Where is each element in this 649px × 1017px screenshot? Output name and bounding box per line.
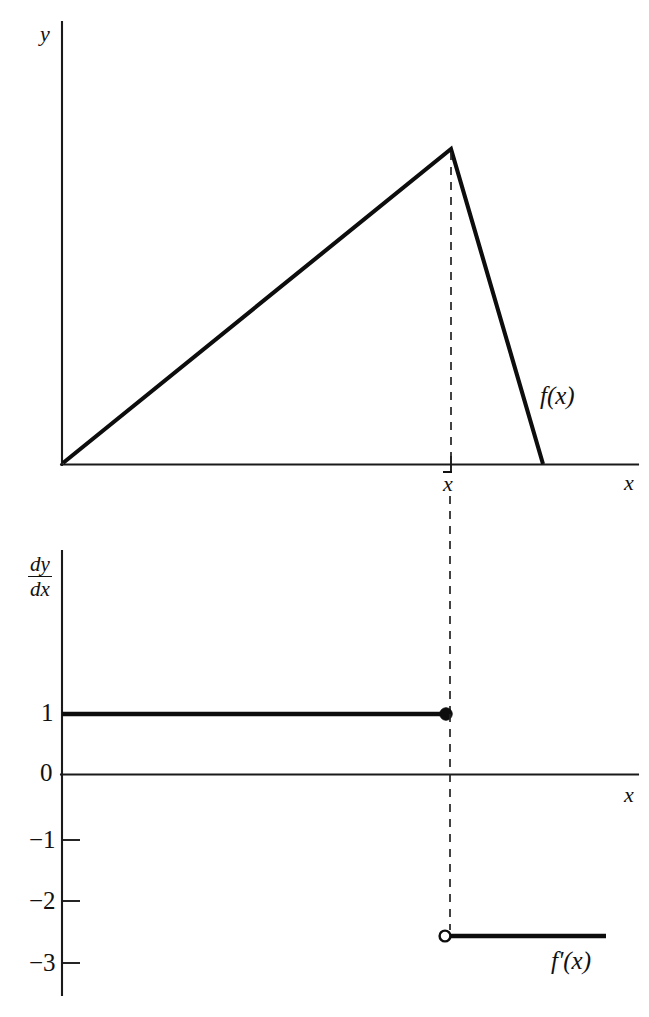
ytick-label-minus3: −3 bbox=[29, 950, 56, 975]
bottom-x-axis-label: x bbox=[624, 784, 634, 806]
xbar-tick-label: x bbox=[443, 471, 453, 495]
bottom-y-axis-label: dy dx bbox=[28, 553, 52, 601]
xbar-glyph: x bbox=[443, 471, 453, 495]
ytick-label-0: 0 bbox=[40, 760, 53, 785]
top-y-axis-label: y bbox=[40, 23, 50, 45]
fraction-denominator: dx bbox=[28, 576, 52, 600]
ytick-label-1: 1 bbox=[41, 700, 54, 725]
dy-dx-fraction: dy dx bbox=[28, 553, 52, 601]
top-x-axis-label: x bbox=[624, 472, 634, 494]
figure-canvas bbox=[0, 0, 649, 1017]
bottom-panel-group bbox=[61, 551, 638, 995]
figure-root: y x f(x) x dy dx 1 0 −1 −2 −3 x f'(x) bbox=[0, 0, 649, 1017]
function-curve-label: f(x) bbox=[540, 383, 575, 408]
ytick-label-minus1: −1 bbox=[29, 827, 56, 852]
function-curve-fx bbox=[63, 149, 543, 464]
derivative-curve-label: f'(x) bbox=[551, 948, 591, 973]
ytick-label-minus2: −2 bbox=[29, 888, 56, 913]
fraction-numerator: dy bbox=[28, 553, 52, 576]
open-endpoint-circle bbox=[440, 931, 451, 942]
